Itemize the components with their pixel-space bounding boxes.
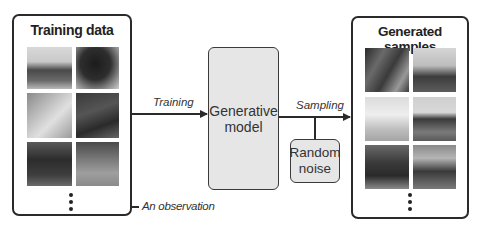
generative-model-box: Generative model: [208, 47, 279, 190]
generated-image-2: [413, 48, 456, 92]
random-noise-label-line2: noise: [289, 161, 340, 177]
training-image-4: [76, 93, 119, 138]
generated-more-icon: [407, 193, 413, 214]
generated-image-3: [365, 97, 409, 141]
training-image-1: [27, 47, 72, 89]
generative-model-label-line2: model: [209, 119, 277, 135]
training-image-5: [27, 142, 72, 186]
training-image-2: [76, 47, 119, 89]
training-data-title: Training data: [14, 22, 130, 38]
training-image-3: [27, 93, 72, 138]
training-label: Training: [153, 96, 194, 108]
generative-model-label-line1: Generative: [209, 103, 277, 119]
sampling-label: Sampling: [296, 99, 344, 111]
generated-image-4: [413, 97, 456, 141]
training-more-icon: [68, 193, 74, 214]
generated-image-6: [413, 145, 456, 189]
training-image-6: [76, 142, 119, 186]
generated-image-5: [365, 145, 409, 189]
observation-label: An observation: [142, 200, 215, 212]
random-noise-label-line1: Random: [289, 145, 340, 161]
random-noise-box: Random noise: [290, 139, 340, 183]
generated-image-1: [365, 48, 409, 92]
